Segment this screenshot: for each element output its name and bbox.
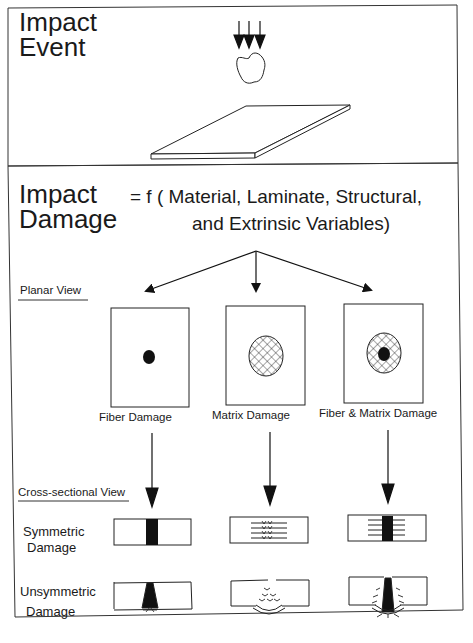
planar-label-fiber: Fiber Damage — [99, 411, 172, 423]
cross-section-symmetric-matrix — [230, 517, 308, 543]
down-arrows — [146, 430, 394, 507]
planar-panel-matrix — [226, 306, 305, 405]
planar-label-fiber-matrix: Fiber & Matrix Damage — [319, 407, 437, 419]
planar-panel-fiber-matrix — [344, 304, 423, 403]
label-line-2: Damage — [20, 604, 96, 620]
label-line-2: Damage — [23, 540, 84, 556]
symmetric-damage-label: Symmetric Damage — [23, 524, 84, 556]
title-line-2: Event — [19, 35, 97, 60]
impact-event-title: Impact Event — [19, 10, 97, 60]
label-line-1: Symmetric — [23, 524, 84, 540]
branch-arrows — [146, 251, 371, 291]
planar-view-heading: Planar View — [20, 284, 81, 296]
cross-section-unsymmetric-matrix — [231, 580, 309, 614]
unsymmetric-damage-label: Unsymmetric Damage — [20, 584, 96, 620]
cross-section-unsymmetric-fiber — [114, 582, 192, 612]
cross-section-symmetric-fiber — [114, 519, 191, 545]
impact-damage-title: Impact Damage — [19, 182, 117, 232]
cross-sectional-heading: Cross-sectional View — [18, 486, 125, 498]
cross-section-symmetric-fiber-matrix — [348, 515, 426, 541]
title-line-2: Damage — [19, 207, 117, 232]
impactor-icon — [237, 53, 265, 83]
planar-panel-fiber — [111, 308, 189, 407]
plate-icon — [151, 105, 350, 159]
formula-line-2: and Extrinsic Variables) — [192, 213, 390, 235]
formula-line-1: = f ( Material, Laminate, Structural, — [130, 186, 422, 208]
impact-arrows-icon — [234, 21, 265, 48]
label-line-1: Unsymmetric — [20, 584, 96, 600]
planar-label-matrix: Matrix Damage — [212, 409, 290, 421]
